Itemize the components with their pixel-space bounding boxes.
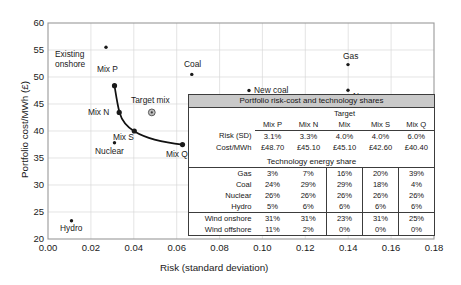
cell-cost-mix-n: £45.10	[291, 142, 327, 153]
cell-gas-target-mix: 16%	[327, 168, 363, 180]
annotation-gas: Gas	[343, 52, 358, 62]
cell-wind-onshore-mix-s: 31%	[363, 213, 399, 225]
cell-wind-onshore-mix-p: 31%	[255, 213, 291, 225]
table-row: Gas 3% 7% 16% 20% 39%	[189, 168, 435, 180]
row-label-gas: Gas	[189, 168, 255, 180]
cell-hydro-mix-s: 6%	[363, 201, 399, 213]
table-section-header-row: Technology energy share	[189, 156, 435, 168]
annotation-mix-n: Mix N	[88, 108, 109, 118]
xtick-0.04: 0.04	[114, 243, 154, 253]
cell-wind-offshore-mix-n: 2%	[291, 224, 327, 236]
xtick-0.00: 0.00	[28, 243, 68, 253]
cell-coal-mix-q: 4%	[399, 179, 435, 190]
point-mix-q	[180, 142, 185, 147]
cell-nuclear-mix-p: 26%	[255, 190, 291, 201]
cell-cost-mix-s: £42.60	[363, 142, 399, 153]
annotation-hydro: Hydro	[60, 224, 82, 234]
annotation-mix-p: Mix P	[97, 65, 118, 75]
cell-coal-mix-s: 18%	[363, 179, 399, 190]
table-column-header-row: Mix P Mix N Mix Mix S Mix Q	[189, 119, 435, 131]
section-header-technology-share: Technology energy share	[189, 156, 435, 168]
xtick-0.10: 0.10	[242, 243, 282, 253]
cell-nuclear-mix-n: 26%	[291, 190, 327, 201]
spacer-cell	[363, 108, 399, 120]
annotation-target-mix: Target mix	[131, 96, 170, 106]
chart-figure: 60 55 50 45 40 35 30 25 20 0.00 0.02 0.0…	[0, 0, 461, 285]
cell-nuclear-mix-q: 26%	[399, 190, 435, 201]
annotation-coal: Coal	[184, 60, 201, 70]
ytick-60: 60	[14, 18, 44, 28]
cell-hydro-mix-p: 5%	[255, 201, 291, 213]
table-row: Risk (SD) 3.1% 3.3% 4.0% 4.0% 6.0%	[189, 131, 435, 143]
point-gas	[346, 63, 349, 66]
cell-nuclear-target-mix: 26%	[327, 190, 363, 201]
point-new-coal	[247, 89, 250, 92]
cell-cost-mix-q: £40.40	[399, 142, 435, 153]
table-row: Hydro 5% 6% 6% 6% 6%	[189, 201, 435, 213]
col-header-target-mix: Mix	[327, 119, 363, 131]
row-label-wind-onshore: Wind onshore	[189, 213, 255, 225]
table-row: Wind onshore 31% 31% 23% 31% 25%	[189, 213, 435, 225]
xtick-0.18: 0.18	[414, 243, 454, 253]
cell-risk-mix-n: 3.3%	[291, 131, 327, 143]
xtick-0.06: 0.06	[157, 243, 197, 253]
table-title-row: Portfolio risk-cost and technology share…	[189, 95, 435, 108]
point-mix-p	[112, 83, 117, 88]
cell-risk-target-mix: 4.0%	[327, 131, 363, 143]
spacer-cell	[189, 108, 255, 120]
spacer-cell	[399, 108, 435, 120]
x-axis-label: Risk (standard deviation)	[160, 262, 360, 273]
col-header-mix-q: Mix Q	[399, 119, 435, 131]
cell-coal-mix-n: 29%	[291, 179, 327, 190]
cell-gas-mix-p: 3%	[255, 168, 291, 180]
annotation-nuclear: Nuclear	[95, 147, 124, 157]
xtick-0.08: 0.08	[200, 243, 240, 253]
xtick-0.12: 0.12	[285, 243, 325, 253]
cell-wind-offshore-mix-s: 0%	[363, 224, 399, 236]
cell-wind-onshore-mix-n: 31%	[291, 213, 327, 225]
cell-wind-offshore-mix-q: 0%	[399, 224, 435, 236]
cell-wind-onshore-target-mix: 23%	[327, 213, 363, 225]
point-existing-onshore	[104, 46, 107, 49]
cell-risk-mix-s: 4.0%	[363, 131, 399, 143]
row-label-nuclear: Nuclear	[189, 190, 255, 201]
table-target-header-row: Target	[189, 108, 435, 120]
table-row: Wind offshore 11% 2% 0% 0% 0%	[189, 224, 435, 236]
cell-wind-onshore-mix-q: 25%	[399, 213, 435, 225]
point-new-gas	[346, 89, 349, 92]
table-row: Coal 24% 29% 29% 18% 4%	[189, 179, 435, 190]
spacer-cell	[291, 108, 327, 120]
table-row: Nuclear 26% 26% 26% 26% 26%	[189, 190, 435, 201]
cell-gas-mix-n: 7%	[291, 168, 327, 180]
point-coal	[190, 73, 193, 76]
row-label-coal: Coal	[189, 179, 255, 190]
row-label-hydro: Hydro	[189, 201, 255, 213]
row-label-risk-sd: Risk (SD)	[189, 131, 255, 143]
cell-hydro-mix-n: 6%	[291, 201, 327, 213]
cell-risk-mix-q: 6.0%	[399, 131, 435, 143]
cell-gas-mix-q: 39%	[399, 168, 435, 180]
cell-gas-mix-s: 20%	[363, 168, 399, 180]
col-header-mix-s: Mix S	[363, 119, 399, 131]
row-label-wind-offshore: Wind offshore	[189, 224, 255, 236]
spacer-cell	[255, 108, 291, 120]
cell-hydro-mix-q: 6%	[399, 201, 435, 213]
cell-cost-mix-p: £48.70	[255, 142, 291, 153]
xtick-0.16: 0.16	[371, 243, 411, 253]
point-hydro	[70, 219, 73, 222]
cell-hydro-target-mix: 6%	[327, 201, 363, 213]
cell-nuclear-mix-s: 26%	[363, 190, 399, 201]
cell-coal-target-mix: 29%	[327, 179, 363, 190]
y-axis-label: Portfolio cost/MWh (£)	[19, 45, 30, 215]
cell-cost-target-mix: £45.10	[327, 142, 363, 153]
cell-wind-offshore-target-mix: 0%	[327, 224, 363, 236]
table-row: Cost/MWh £48.70 £45.10 £45.10 £42.60 £40…	[189, 142, 435, 153]
xtick-0.14: 0.14	[328, 243, 368, 253]
cell-wind-offshore-mix-p: 11%	[255, 224, 291, 236]
row-label-cost-mwh: Cost/MWh	[189, 142, 255, 153]
point-mix-n	[117, 110, 122, 115]
cell-risk-mix-p: 3.1%	[255, 131, 291, 143]
col-header-mix-n: Mix N	[291, 119, 327, 131]
point-target-mix	[148, 109, 155, 116]
portfolio-data-table: Portfolio risk-cost and technology share…	[188, 94, 435, 236]
